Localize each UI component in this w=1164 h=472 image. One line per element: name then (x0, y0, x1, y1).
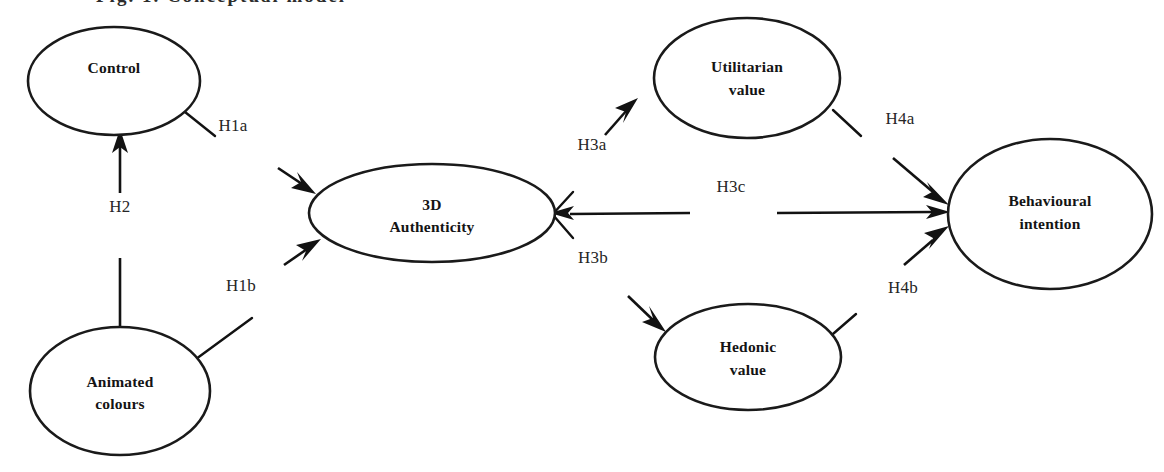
node-utilitarian-value-label-line1: Utilitarian (711, 58, 783, 75)
node-animated-colours-label-line1: Animated (86, 373, 153, 390)
hypothesis-label-h3b: H3b (578, 248, 608, 267)
edge-h1b-stub (196, 318, 252, 359)
node-animated-colours-ellipse[interactable] (30, 327, 210, 455)
edge-h3a-arrow-shaft (605, 110, 627, 135)
node-hedonic-value-ellipse[interactable] (655, 304, 841, 410)
edge-h1b-into-authenticity (284, 239, 321, 265)
node-animated-colours[interactable]: Animated colours (30, 327, 210, 455)
hypothesis-label-h3c: H3c (716, 177, 745, 196)
hypothesis-label-h4b: H4b (888, 278, 918, 297)
edge-h3c-right (777, 205, 950, 219)
node-hedonic-value-label-line1: Hedonic (720, 338, 777, 355)
node-control[interactable]: Control (28, 27, 200, 135)
node-animated-colours-label-line2: colours (95, 395, 145, 412)
edge-h3b-arrow-shaft (628, 296, 653, 320)
edge-h4a-arrow-shaft (893, 158, 933, 192)
edge-h3b-arrowhead-icon (642, 306, 666, 332)
node-control-label-line1: Control (88, 59, 141, 76)
edge-h1a-into-authenticity (278, 168, 316, 194)
node-utilitarian-value-label-line2: value (729, 81, 765, 98)
hypothesis-label-h2: H2 (109, 197, 130, 216)
edge-h2 (112, 129, 128, 327)
edge-h3c-left (550, 206, 690, 220)
node-control-ellipse[interactable] (28, 27, 200, 135)
conceptual-model-figure: Fig. 1. Conceptual model (0, 0, 1164, 472)
hypothesis-label-h4a: H4a (885, 109, 914, 128)
node-3d-authenticity-label-line2: Authenticity (389, 218, 474, 235)
node-behavioural-intention-label-line1: Behavioural (1008, 192, 1092, 209)
node-hedonic-value[interactable]: Hedonic value (655, 304, 841, 410)
hypothesis-label-h1a: H1a (218, 116, 247, 135)
node-hedonic-value-label-line2: value (730, 361, 766, 378)
edge-h1a (185, 112, 215, 136)
edge-h1a-arrowhead-icon (291, 172, 316, 194)
hypothesis-label-h3a: H3a (577, 135, 606, 154)
diagram-canvas: Control Animated colours 3D Authenticity… (0, 0, 1164, 472)
node-3d-authenticity-label-line1: 3D (422, 196, 441, 213)
edge-h3b-into-hedonic (628, 296, 666, 332)
node-behavioural-intention-ellipse[interactable] (948, 139, 1152, 289)
edge-h4a-stub (833, 110, 861, 136)
node-behavioural-intention[interactable]: Behavioural intention (948, 139, 1152, 289)
edge-h4b-arrow-shaft (904, 240, 933, 265)
node-behavioural-intention-label-line2: intention (1019, 215, 1080, 232)
edge-h3c-right-segment (777, 212, 932, 213)
node-3d-authenticity[interactable]: 3D Authenticity (309, 164, 555, 262)
edge-h1b-arrowhead-icon (296, 239, 321, 261)
edge-h1a-stub (185, 112, 215, 136)
node-3d-authenticity-ellipse[interactable] (309, 164, 555, 262)
edge-h1b (196, 318, 252, 359)
node-utilitarian-value[interactable]: Utilitarian value (654, 18, 840, 138)
edge-h3c-left-segment (570, 213, 690, 214)
hypothesis-label-h1b: H1b (226, 276, 256, 295)
node-utilitarian-value-ellipse[interactable] (654, 18, 840, 138)
edge-h3a-into-utilitarian (605, 98, 638, 135)
